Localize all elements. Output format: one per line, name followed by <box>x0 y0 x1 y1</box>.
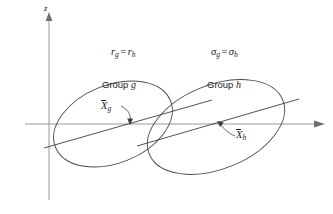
z-axis-arrowhead <box>46 12 53 21</box>
sigma-trail-subscript: h <box>234 50 238 59</box>
z-axis-label: z <box>44 4 47 13</box>
z-axis <box>46 12 53 200</box>
label-mean-h: Xh <box>236 130 246 142</box>
label-group-h: Group h <box>207 80 241 90</box>
label-group-g: Group g <box>102 80 136 90</box>
label-mean-h-subscript: h <box>242 133 246 142</box>
callout-arrow-mean-h <box>217 121 235 136</box>
figure-canvas: z rg=rh σg=σh Group g Group h Xg Xh <box>0 0 333 214</box>
sigma-equals-sign: = <box>220 46 229 57</box>
callout-arrow-mean-h-curve <box>221 125 235 136</box>
label-group-h-word: Group <box>207 79 233 90</box>
label-mean-h-symbol: X <box>236 130 242 141</box>
figure-graphics <box>0 0 333 214</box>
label-mean-g-symbol: X <box>101 101 107 112</box>
annotation-sigma-equality: σg=σh <box>211 47 238 59</box>
label-mean-g: Xg <box>101 101 111 113</box>
label-group-g-word: Group <box>102 79 128 90</box>
correlation-equals-sign: = <box>119 46 128 57</box>
callout-arrow-mean-g <box>121 106 133 125</box>
label-group-h-symbol: h <box>236 79 241 90</box>
x-axis-arrowhead <box>314 120 325 127</box>
label-group-g-symbol: g <box>131 79 136 90</box>
correlation-trail-subscript: h <box>132 50 136 59</box>
label-mean-g-subscript: g <box>107 104 111 113</box>
annotation-correlation-equality: rg=rh <box>111 47 136 59</box>
